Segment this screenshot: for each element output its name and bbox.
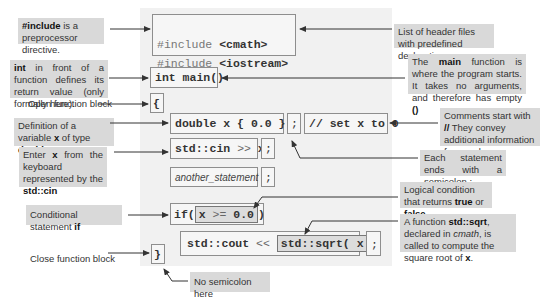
arrow-logical <box>254 197 398 208</box>
arrow-semicolon <box>292 141 418 158</box>
annotation-arrows <box>0 0 541 305</box>
arrow-no-semicolon <box>164 269 188 281</box>
arrow-sqrt <box>305 221 398 234</box>
